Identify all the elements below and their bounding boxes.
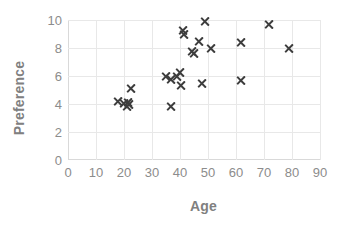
y-axis-tick-label: 4 — [36, 98, 62, 111]
y-axis-tick-label: 0 — [36, 154, 62, 167]
data-point-marker — [126, 83, 137, 94]
gridline-vertical — [180, 20, 181, 160]
x-axis-tick-label: 60 — [229, 166, 243, 179]
data-point-marker — [121, 101, 132, 112]
gridline-vertical — [96, 20, 97, 160]
gridline-horizontal — [68, 104, 320, 105]
y-axis-tick-label: 6 — [36, 70, 62, 83]
data-point-marker — [113, 96, 124, 107]
gridline-vertical — [264, 20, 265, 160]
gridline-horizontal — [68, 76, 320, 77]
gridline-vertical — [236, 20, 237, 160]
x-axis-tick-label: 30 — [145, 166, 159, 179]
scatter-chart: Preference 0246810 0102030405060708090 A… — [0, 0, 347, 230]
x-axis-tick-label: 80 — [285, 166, 299, 179]
data-point-marker — [194, 36, 205, 47]
x-axis-tick-label: 40 — [173, 166, 187, 179]
x-axis-tick-label: 90 — [313, 166, 327, 179]
data-point-marker — [200, 16, 211, 27]
x-axis-tick-label: 70 — [257, 166, 271, 179]
gridline-horizontal — [68, 132, 320, 133]
y-axis-title: Preference — [11, 38, 27, 158]
x-axis-tick-label: 20 — [117, 166, 131, 179]
gridline-vertical — [320, 20, 321, 160]
gridline-horizontal — [68, 48, 320, 49]
data-point-marker — [236, 75, 247, 86]
gridline-vertical — [208, 20, 209, 160]
x-axis-tick-label: 50 — [201, 166, 215, 179]
x-axis-tick-label: 10 — [89, 166, 103, 179]
y-axis-tick-labels: 0246810 — [36, 0, 62, 230]
x-axis-line — [68, 159, 320, 160]
gridline-vertical — [292, 20, 293, 160]
gridline-vertical — [152, 20, 153, 160]
x-axis-title: Age — [0, 198, 347, 214]
data-point-marker — [236, 37, 247, 48]
data-point-marker — [189, 48, 200, 59]
data-point-marker — [176, 80, 187, 91]
y-axis-tick-label: 8 — [36, 42, 62, 55]
y-axis-tick-label: 10 — [36, 14, 62, 27]
data-point-marker — [177, 25, 188, 36]
plot-area — [68, 20, 320, 160]
data-point-marker — [197, 78, 208, 89]
data-point-marker — [166, 101, 177, 112]
y-axis-tick-label: 2 — [36, 126, 62, 139]
gridline-horizontal — [68, 20, 320, 21]
y-axis-line — [68, 20, 69, 160]
gridline-vertical — [124, 20, 125, 160]
x-axis-tick-label: 0 — [64, 166, 71, 179]
